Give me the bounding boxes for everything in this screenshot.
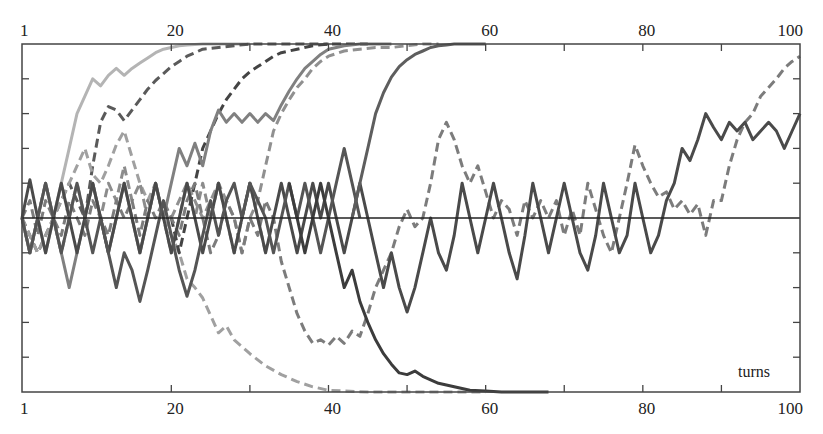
x-tick-label: 60	[481, 21, 498, 40]
x-tick-label: 40	[324, 21, 341, 40]
x-tick-label: 1	[20, 399, 29, 418]
series-line	[289, 183, 548, 392]
series-line	[352, 44, 486, 218]
series-line	[22, 114, 800, 312]
x-tick-label: 20	[167, 21, 184, 40]
x-tick-label: 1	[20, 21, 29, 40]
x-tick-label: 100	[778, 21, 804, 40]
x-tick-label: 80	[638, 21, 655, 40]
x-tick-label: 60	[481, 399, 498, 418]
line-chart: 120406080100120406080100 turns	[0, 0, 823, 434]
series-line	[22, 131, 486, 392]
x-tick-label: 100	[778, 399, 804, 418]
x-tick-label: 20	[167, 399, 184, 418]
x-axis-label: turns	[738, 363, 770, 380]
x-tick-label: 40	[324, 399, 341, 418]
x-tick-label: 80	[638, 399, 655, 418]
